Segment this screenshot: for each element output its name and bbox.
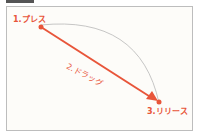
step-press-label: 1.プレス	[13, 13, 46, 24]
press-point-icon	[39, 25, 44, 30]
drag-arrow-line	[41, 27, 152, 98]
release-point-icon	[157, 100, 162, 105]
step-release-label: 3.リリース	[147, 105, 188, 116]
